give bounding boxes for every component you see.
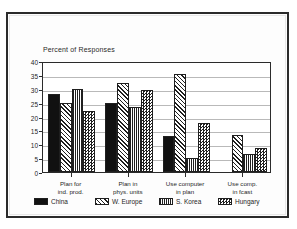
- legend-item[interactable]: Hungary: [218, 196, 260, 207]
- page-frame: Percent of Responses 0510152025303540 Pl…: [6, 12, 289, 218]
- legend-label: Hungary: [235, 198, 260, 205]
- chart-legend: ChinaW. EuropeS. KoreaHungary: [34, 196, 274, 208]
- legend-swatch-icon: [218, 198, 232, 205]
- y-axis-tick-mark: [39, 173, 42, 174]
- legend-swatch-icon: [34, 198, 48, 205]
- bar: [83, 111, 95, 172]
- bar: [141, 90, 153, 172]
- bar: [72, 89, 84, 172]
- y-axis-tick-mark: [39, 145, 42, 146]
- legend-item[interactable]: China: [34, 196, 68, 207]
- y-axis-tick-label: 40: [18, 59, 38, 66]
- legend-item[interactable]: S. Korea: [159, 196, 201, 207]
- bar: [243, 154, 255, 172]
- y-axis-tick-mark: [39, 159, 42, 160]
- y-axis-tick-label: 5: [18, 156, 38, 163]
- y-axis-tick-label: 35: [18, 72, 38, 79]
- y-axis-tick-label: 30: [18, 86, 38, 93]
- bar: [129, 107, 141, 172]
- bar: [48, 94, 60, 172]
- legend-swatch-icon: [95, 198, 109, 205]
- bar: [163, 136, 175, 172]
- x-axis-category-label: Use comp.in fcast: [202, 180, 282, 195]
- x-axis-tick-mark: [71, 173, 72, 177]
- y-axis-tick-label: 15: [18, 128, 38, 135]
- legend-label: W. Europe: [112, 198, 142, 205]
- x-axis-tick-mark: [185, 173, 186, 177]
- y-axis-tick-mark: [39, 62, 42, 63]
- bar: [105, 103, 117, 172]
- bar: [60, 103, 72, 172]
- bar: [117, 83, 129, 172]
- y-axis-tick-mark: [39, 131, 42, 132]
- y-axis-tick-mark: [39, 76, 42, 77]
- y-axis-tick-label: 25: [18, 100, 38, 107]
- y-axis-tick-mark: [39, 104, 42, 105]
- legend-label: China: [51, 198, 68, 205]
- bar-chart: Percent of Responses 0510152025303540 Pl…: [8, 14, 291, 220]
- y-axis-tick-label: 10: [18, 142, 38, 149]
- chart-screenshot: Percent of Responses 0510152025303540 Pl…: [0, 0, 297, 229]
- y-axis-tick-mark: [39, 90, 42, 91]
- bar: [198, 123, 210, 172]
- y-axis-tick-mark: [39, 118, 42, 119]
- legend-swatch-icon: [159, 198, 173, 205]
- bar: [232, 135, 244, 172]
- bars-layer: [43, 63, 270, 172]
- y-axis-tick-label: 20: [18, 114, 38, 121]
- bar: [186, 158, 198, 172]
- bar: [255, 148, 267, 172]
- plot-area: [42, 62, 271, 173]
- legend-label: S. Korea: [176, 198, 201, 205]
- x-axis-tick-mark: [242, 173, 243, 177]
- x-axis-tick-mark: [128, 173, 129, 177]
- legend-item[interactable]: W. Europe: [95, 196, 142, 207]
- bar: [174, 74, 186, 173]
- y-axis-tick-label: 0: [18, 170, 38, 177]
- chart-title: Percent of Responses: [43, 46, 115, 53]
